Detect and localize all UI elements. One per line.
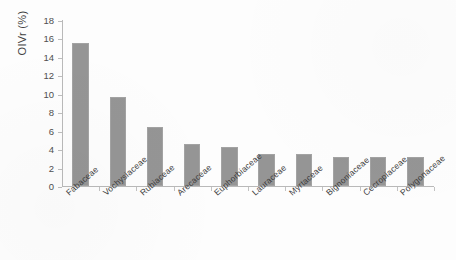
y-tick-label: 14 xyxy=(28,53,54,63)
x-axis-category-labels: FabaceaeVochysiaceaeRubiaceaeArecaceaeEu… xyxy=(62,190,456,260)
y-tick-label: 10 xyxy=(28,90,54,100)
bar xyxy=(72,43,88,186)
y-tick-label: 18 xyxy=(28,16,54,26)
y-tick-mark xyxy=(58,187,62,188)
y-tick-label: 16 xyxy=(28,34,54,44)
y-tick-label: 4 xyxy=(28,145,54,155)
y-tick-label: 8 xyxy=(28,108,54,118)
y-tick-label: 0 xyxy=(28,182,54,192)
bar-chart-figure: OIVr (%) 024681012141618 FabaceaeVochysi… xyxy=(0,0,456,260)
y-tick-label: 12 xyxy=(28,71,54,81)
y-tick-label: 6 xyxy=(28,127,54,137)
y-tick-label: 2 xyxy=(28,164,54,174)
